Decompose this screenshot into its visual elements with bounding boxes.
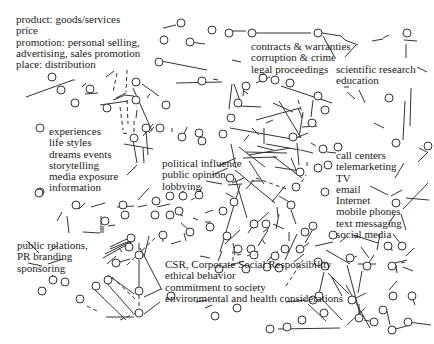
node-circle-icon bbox=[155, 58, 163, 66]
edge bbox=[277, 207, 278, 217]
edge bbox=[133, 140, 137, 163]
node-circle-icon bbox=[225, 29, 233, 37]
edge bbox=[240, 106, 261, 107]
edge bbox=[144, 236, 149, 257]
edge bbox=[347, 92, 355, 99]
node-circle-icon bbox=[233, 304, 241, 312]
node-circle-icon bbox=[159, 231, 167, 239]
edge bbox=[26, 80, 73, 97]
edge bbox=[205, 305, 212, 308]
edge bbox=[272, 186, 285, 202]
node-circle-icon bbox=[195, 191, 203, 199]
edge bbox=[91, 203, 105, 207]
edge bbox=[100, 101, 128, 105]
node-circle-icon bbox=[92, 282, 100, 290]
node-circle-icon bbox=[404, 318, 412, 326]
edge bbox=[301, 150, 313, 153]
node-circle-icon bbox=[219, 207, 227, 215]
node-circle-icon bbox=[72, 201, 80, 209]
edge bbox=[142, 84, 159, 96]
node-circle-icon bbox=[48, 73, 56, 81]
edge bbox=[144, 289, 161, 297]
node-circle-icon bbox=[298, 316, 306, 324]
edge bbox=[138, 188, 149, 200]
edge bbox=[230, 128, 292, 139]
node-circle-icon bbox=[132, 78, 140, 86]
node-circle-icon bbox=[398, 242, 406, 250]
edge bbox=[252, 128, 259, 135]
node-circle-icon bbox=[127, 234, 135, 242]
dashed-edge bbox=[113, 73, 117, 92]
node-circle-icon bbox=[363, 262, 371, 270]
node-circle-icon bbox=[424, 142, 432, 150]
edge bbox=[417, 67, 427, 72]
label-communication: call centers telemarketing TV email Inte… bbox=[336, 150, 402, 240]
edge bbox=[322, 33, 341, 36]
edge bbox=[315, 242, 333, 246]
edge bbox=[387, 311, 390, 325]
node-circle-icon bbox=[166, 192, 174, 200]
edge bbox=[244, 91, 248, 94]
node-circle-icon bbox=[119, 201, 127, 209]
dashed-edge bbox=[87, 306, 99, 312]
edge bbox=[57, 212, 62, 221]
label-line: lobbying bbox=[162, 181, 242, 192]
edge bbox=[161, 61, 207, 70]
node-circle-icon bbox=[296, 168, 304, 176]
node-circle-icon bbox=[103, 104, 111, 112]
node-circle-icon bbox=[370, 318, 378, 326]
node-circle-icon bbox=[281, 245, 289, 253]
edge bbox=[95, 290, 126, 320]
node-circle-icon bbox=[388, 326, 396, 334]
edge bbox=[243, 157, 277, 158]
edge bbox=[123, 95, 134, 96]
node-circle-icon bbox=[61, 278, 69, 286]
node-circle-icon bbox=[227, 114, 235, 122]
node-circle-icon bbox=[162, 101, 170, 109]
node-circle-icon bbox=[198, 137, 206, 145]
edge bbox=[147, 94, 150, 98]
edge bbox=[410, 88, 411, 126]
node-circle-icon bbox=[262, 220, 270, 228]
edge bbox=[404, 40, 417, 41]
edge bbox=[389, 281, 397, 290]
node-circle-icon bbox=[135, 287, 143, 295]
label-line: ethical behavior bbox=[165, 270, 343, 281]
edge bbox=[229, 84, 232, 109]
edge bbox=[184, 127, 187, 134]
edge bbox=[184, 233, 186, 241]
node-circle-icon bbox=[208, 26, 216, 34]
edge bbox=[67, 216, 69, 233]
node-circle-icon bbox=[179, 192, 187, 200]
edge bbox=[157, 204, 170, 207]
edge bbox=[83, 232, 100, 233]
node-circle-icon bbox=[76, 295, 84, 303]
label-line: telemarketing bbox=[336, 161, 402, 172]
node-circle-icon bbox=[259, 74, 267, 82]
node-circle-icon bbox=[389, 292, 397, 300]
node-circle-icon bbox=[230, 198, 238, 206]
node-circle-icon bbox=[319, 145, 327, 153]
edge bbox=[297, 143, 299, 165]
node-circle-icon bbox=[211, 312, 219, 320]
label-line: education bbox=[336, 75, 416, 86]
label-line: social media bbox=[336, 229, 402, 240]
node-circle-icon bbox=[57, 86, 65, 94]
node-circle-icon bbox=[49, 276, 57, 284]
label-line: PR branding bbox=[17, 251, 88, 262]
label-line: corruption & crime bbox=[251, 52, 351, 63]
edge bbox=[327, 152, 336, 153]
edge bbox=[359, 90, 365, 103]
edge bbox=[311, 100, 313, 117]
node-circle-icon bbox=[408, 292, 416, 300]
node-circle-icon bbox=[177, 19, 185, 27]
node-circle-icon bbox=[156, 124, 164, 132]
label-line: environmental and health considerations bbox=[165, 293, 343, 304]
node-circle-icon bbox=[248, 29, 256, 37]
node-circle-icon bbox=[314, 92, 322, 100]
node-circle-icon bbox=[320, 309, 328, 317]
node-circle-icon bbox=[292, 183, 300, 191]
node-circle-icon bbox=[286, 79, 294, 87]
node-circle-icon bbox=[266, 325, 274, 333]
node-circle-icon bbox=[198, 77, 206, 85]
